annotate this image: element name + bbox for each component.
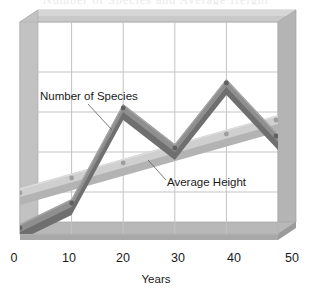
series-marker [69,201,74,206]
series-marker [224,81,229,86]
annotation-average-height-label: Average Height [167,176,247,188]
x-tick-label: 40 [227,251,241,265]
line-chart: Number of Species Average Height 0 10 20… [0,0,312,289]
series-marker [18,191,23,196]
frame-floor-lip [20,234,278,240]
series-marker [274,118,279,123]
frame-floor [20,222,296,234]
x-tick-label: 0 [11,251,18,265]
frame-right-wall [278,10,296,234]
series-marker [172,146,177,151]
series-marker [121,106,126,111]
annotation-number-of-species-label: Number of Species [40,90,138,102]
chart-screenshot: Number of Species and Average Height [0,0,312,289]
series-marker [69,176,74,181]
series-marker [224,132,229,137]
x-tick-label: 20 [116,251,130,265]
x-tick-label: 10 [62,251,76,265]
x-tick-label: 50 [285,251,299,265]
series-marker [18,226,23,231]
x-axis-title: Years [142,273,171,285]
series-marker [274,134,279,139]
series-marker [121,161,126,166]
x-axis-tick-labels: 0 10 20 30 40 50 [11,251,299,265]
x-tick-label: 30 [171,251,185,265]
frame-top-slab-face [38,10,296,16]
